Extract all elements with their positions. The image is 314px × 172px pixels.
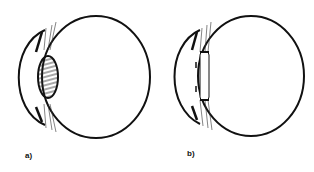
lens-b: [200, 52, 209, 100]
ciliary-upper-b: [200, 22, 211, 52]
cornea-b: [175, 30, 201, 124]
panel-label-a: a): [25, 151, 32, 160]
eye-diagram: [0, 0, 314, 172]
eyeball-b: [198, 16, 304, 136]
eye-b: [175, 16, 305, 136]
lens-a: [38, 56, 58, 98]
panel-label-b: b): [187, 149, 195, 158]
ciliary-lower-b: [200, 100, 212, 130]
iris-lower-b: [192, 106, 197, 120]
eye-a: [19, 16, 150, 138]
